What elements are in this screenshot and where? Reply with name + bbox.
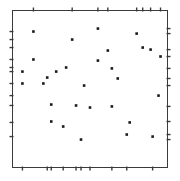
data-point (159, 55, 162, 58)
data-point (62, 125, 65, 128)
data-point (55, 70, 58, 73)
scatter-plot-canvas (0, 0, 180, 181)
data-point (107, 49, 110, 52)
data-point (80, 138, 83, 141)
data-point (42, 82, 45, 85)
data-point (32, 30, 35, 33)
data-point (65, 66, 68, 69)
data-point (21, 82, 24, 85)
data-point (50, 103, 53, 106)
data-point (21, 70, 24, 73)
data-point (32, 58, 35, 61)
data-point (116, 77, 119, 80)
data-point (46, 76, 49, 79)
data-point (128, 121, 131, 124)
data-point (75, 104, 78, 107)
data-point (141, 46, 144, 49)
data-point (149, 48, 152, 51)
data-point (125, 133, 128, 136)
data-point (135, 32, 138, 35)
data-point (50, 120, 53, 123)
data-point (83, 84, 86, 87)
data-point (111, 105, 114, 108)
data-point (97, 59, 100, 62)
data-point (89, 106, 92, 109)
data-point (71, 38, 74, 41)
plot-background (0, 0, 180, 181)
data-point (151, 135, 154, 138)
scatter-plot-figure (0, 0, 180, 181)
data-point (97, 27, 100, 30)
data-point (111, 67, 114, 70)
data-point (157, 94, 160, 97)
